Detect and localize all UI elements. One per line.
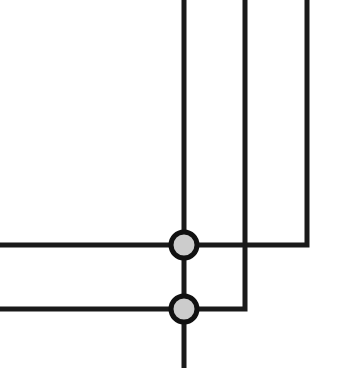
wires-group <box>0 0 307 368</box>
junction-lower-dot-icon <box>171 296 197 322</box>
wire-c <box>0 0 307 245</box>
diagram-canvas <box>0 0 347 368</box>
wire-b <box>0 0 245 309</box>
junction-upper-dot-icon <box>171 232 197 258</box>
wire-diagram <box>0 0 347 368</box>
